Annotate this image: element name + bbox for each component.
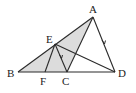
label-b: B (7, 67, 14, 79)
label-f: F (40, 75, 46, 87)
label-e: E (46, 33, 53, 45)
geometry-figure: A B C D E F (0, 0, 136, 93)
label-a: A (89, 3, 97, 15)
label-c: C (62, 75, 69, 87)
label-d: D (118, 67, 126, 79)
